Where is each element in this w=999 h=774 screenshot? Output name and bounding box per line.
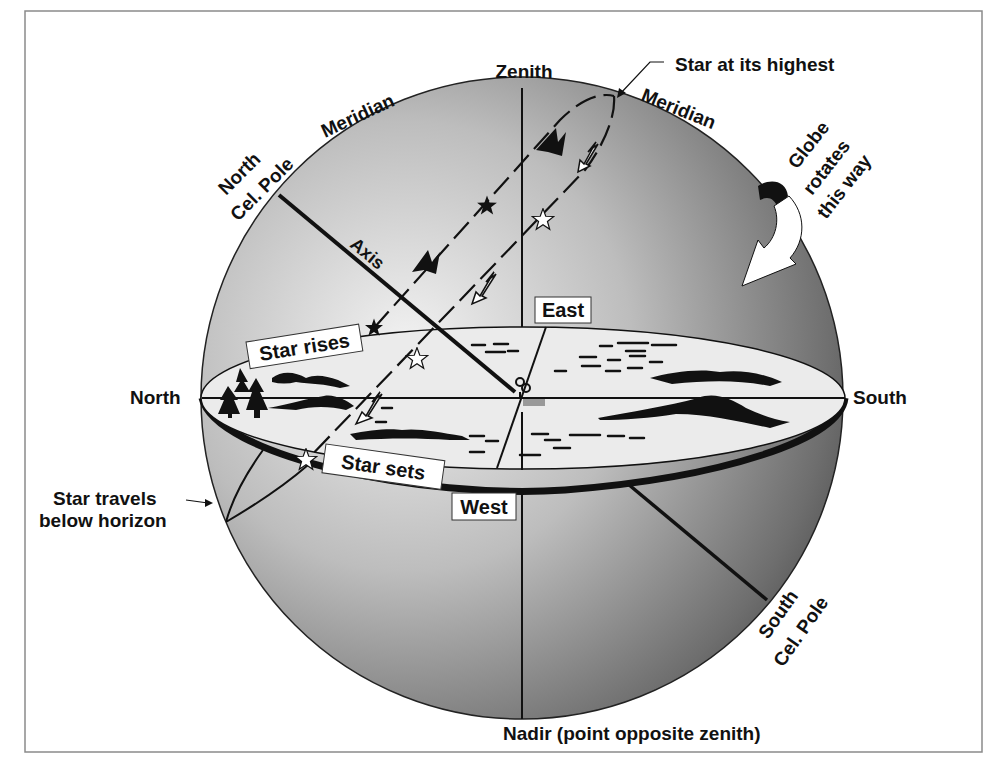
star-below-label-line2: below horizon	[39, 510, 167, 531]
arrowhead-icon	[205, 499, 213, 507]
north-label: North	[130, 387, 181, 408]
star-below-label-line1: Star travels	[53, 488, 157, 509]
east-label: East	[542, 299, 585, 321]
star-highest-label: Star at its highest	[675, 54, 835, 75]
west-label-box: West	[452, 493, 516, 520]
east-label-box: East	[535, 297, 591, 323]
leader-below-horizon	[186, 500, 208, 503]
nadir-label: Nadir (point opposite zenith)	[503, 723, 761, 744]
zenith-label: Zenith	[496, 61, 553, 82]
celestial-sphere-diagram: Zenith Star at its highest Meridian Meri…	[0, 0, 999, 774]
south-label: South	[853, 387, 907, 408]
west-label: West	[460, 496, 508, 518]
observer-shadow	[523, 399, 545, 406]
